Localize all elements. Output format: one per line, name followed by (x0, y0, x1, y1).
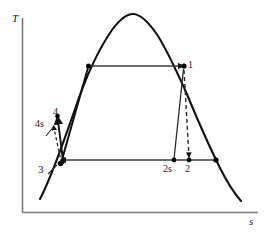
label-4s-leader (46, 126, 54, 136)
saturation-dome-curve (40, 14, 241, 201)
state-label-2: 2 (185, 164, 190, 174)
state-label-3: 3 (38, 164, 44, 175)
state-label-1: 1 (188, 60, 193, 70)
marker-point-2 (187, 158, 192, 163)
state-point-markers (55, 63, 218, 166)
entropy-axis-label: s (249, 216, 253, 227)
ts-diagram-canvas (0, 0, 264, 232)
feedwater-heating-line (61, 66, 89, 165)
marker-sat-vapor-low (213, 157, 218, 162)
temperature-axis-label: T (12, 13, 18, 24)
marker-point-1 (181, 63, 186, 68)
turbine-actual-line (184, 70, 189, 157)
marker-point-3 (58, 161, 64, 167)
state-label-4: 4 (53, 107, 58, 117)
ts-diagram-figure: T s 1 2s 2 3 4 4s (0, 0, 264, 232)
state-label-4s: 4s (35, 119, 44, 129)
marker-sat-liquid-top (86, 64, 91, 69)
state-label-2s: 2s (163, 164, 172, 174)
marker-point-2s (172, 158, 177, 163)
turbine-isentropic-line (174, 69, 184, 159)
